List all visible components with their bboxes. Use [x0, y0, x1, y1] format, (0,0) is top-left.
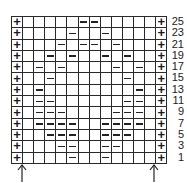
chart-cell [89, 17, 100, 28]
chart-cell [100, 118, 111, 129]
dash-symbol-icon [113, 134, 120, 135]
dash-symbol-icon [36, 67, 43, 68]
chart-cell [67, 152, 78, 163]
chart-cell [45, 73, 56, 84]
chart-cell [89, 28, 100, 39]
chart-cell [122, 141, 133, 152]
chart-cell [122, 28, 133, 39]
chart-cell [56, 96, 67, 107]
chart-cell [122, 107, 133, 118]
knitting-chart-grid: ++++++++++++++++++++++++++ [11, 16, 167, 164]
chart-cell [100, 28, 111, 39]
chart-cell [34, 96, 45, 107]
chart-cell [89, 73, 100, 84]
plus-symbol-icon: + [12, 153, 22, 163]
chart-cell [34, 17, 45, 28]
chart-cell [122, 17, 133, 28]
chart-cell [89, 129, 100, 140]
chart-cell [122, 84, 133, 95]
chart-cell [89, 152, 100, 163]
chart-cell: + [156, 152, 167, 163]
chart-cell [134, 96, 145, 107]
chart-cell: + [12, 152, 23, 163]
chart-cell [23, 107, 34, 118]
chart-row-15: ++ [12, 73, 167, 84]
row-number-labels: 252321191715131197531 [168, 16, 184, 163]
chart-cell [67, 28, 78, 39]
chart-cell [100, 62, 111, 73]
dash-symbol-icon [58, 134, 65, 135]
dash-symbol-icon [91, 21, 98, 22]
chart-cell [122, 62, 133, 73]
chart-cell [45, 129, 56, 140]
chart-cell [45, 107, 56, 118]
left-arrow-icon [17, 163, 27, 183]
chart-cell [111, 107, 122, 118]
plus-symbol-icon: + [156, 153, 166, 163]
chart-cell [122, 50, 133, 61]
dash-symbol-icon [47, 55, 54, 56]
chart-cell [34, 107, 45, 118]
chart-cell [23, 62, 34, 73]
dash-symbol-icon [58, 123, 65, 124]
dash-symbol-icon [113, 44, 120, 45]
chart-cell [89, 96, 100, 107]
chart-cell [23, 141, 34, 152]
chart-row-17: ++ [12, 62, 167, 73]
chart-cell [134, 84, 145, 95]
dash-symbol-icon [47, 101, 54, 102]
chart-cell [67, 129, 78, 140]
chart-cell [145, 141, 156, 152]
chart-cell [78, 152, 89, 163]
chart-cell [45, 39, 56, 50]
row-label: 1 [168, 152, 184, 163]
chart-cell [111, 39, 122, 50]
chart-cell [78, 50, 89, 61]
chart-cell [23, 28, 34, 39]
chart-cell [89, 107, 100, 118]
chart-cell [67, 17, 78, 28]
dash-symbol-icon [36, 112, 43, 113]
chart-cell [67, 50, 78, 61]
chart-cell [34, 129, 45, 140]
chart-cell [111, 17, 122, 28]
chart-row-21: ++ [12, 39, 167, 50]
chart-row-19: ++ [12, 50, 167, 61]
chart-cell [111, 141, 122, 152]
dash-symbol-icon [113, 112, 120, 113]
dash-symbol-icon [124, 112, 131, 113]
chart-cell [134, 73, 145, 84]
chart-cell [145, 152, 156, 163]
chart-cell [122, 118, 133, 129]
chart-cell [134, 141, 145, 152]
dash-symbol-icon [136, 112, 143, 113]
chart-cell [56, 17, 67, 28]
chart-cell [23, 118, 34, 129]
dash-symbol-icon [136, 67, 143, 68]
chart-row-11: ++ [12, 96, 167, 107]
dash-symbol-icon [124, 134, 131, 135]
dash-symbol-icon [36, 89, 43, 90]
chart-cell [78, 84, 89, 95]
chart-cell [56, 84, 67, 95]
dash-symbol-icon [47, 123, 54, 124]
chart-cell [78, 62, 89, 73]
chart-cell [56, 152, 67, 163]
chart-cell [56, 39, 67, 50]
chart-cell [34, 50, 45, 61]
chart-cell [89, 62, 100, 73]
chart-cell [100, 152, 111, 163]
chart-cell [122, 152, 133, 163]
chart-cell [56, 107, 67, 118]
chart-cell [67, 141, 78, 152]
chart-cell [56, 28, 67, 39]
chart-cell [111, 50, 122, 61]
dash-symbol-icon [136, 101, 143, 102]
chart-cell [145, 84, 156, 95]
chart-cell [45, 152, 56, 163]
chart-cell [100, 17, 111, 28]
chart-cell [78, 17, 89, 28]
dash-symbol-icon [36, 123, 43, 124]
chart-cell [78, 73, 89, 84]
chart-cell [111, 73, 122, 84]
